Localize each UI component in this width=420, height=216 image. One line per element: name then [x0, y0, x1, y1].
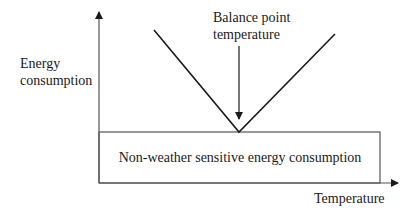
- balance-point-label-line2: temperature: [213, 26, 290, 43]
- balance-point-label: Balance point temperature: [213, 9, 290, 43]
- balance-point-label-line1: Balance point: [213, 9, 290, 26]
- consumption-v-curve: [154, 30, 335, 132]
- x-axis-label: Temperature: [314, 190, 385, 207]
- y-axis-label-line1: Energy: [20, 55, 92, 72]
- y-axis-label: Energy consumption: [20, 55, 92, 89]
- baseload-box-label: Non-weather sensitive energy consumption: [100, 149, 380, 166]
- y-axis-label-line2: consumption: [20, 72, 92, 89]
- diagram-canvas: [0, 0, 420, 216]
